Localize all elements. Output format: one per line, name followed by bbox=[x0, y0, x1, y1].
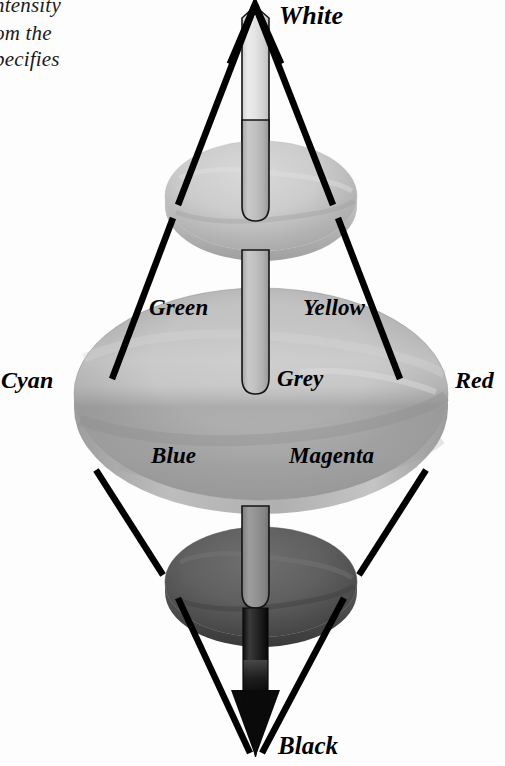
label-magenta: Magenta bbox=[289, 443, 374, 469]
axis-main-through bbox=[242, 250, 269, 394]
label-green: Green bbox=[149, 295, 208, 321]
label-grey: Grey bbox=[277, 366, 323, 392]
label-blue: Blue bbox=[151, 443, 196, 469]
hsv-double-cone-diagram bbox=[0, 0, 505, 766]
axis-lower-through bbox=[242, 506, 269, 608]
label-red: Red bbox=[455, 367, 494, 394]
figure-page: ntensity om the pecifies bbox=[0, 0, 505, 766]
axis-upper-through bbox=[242, 120, 269, 221]
label-cyan: Cyan bbox=[1, 367, 53, 394]
label-yellow: Yellow bbox=[303, 295, 365, 321]
label-white: White bbox=[279, 1, 343, 31]
label-black: Black bbox=[278, 732, 338, 760]
